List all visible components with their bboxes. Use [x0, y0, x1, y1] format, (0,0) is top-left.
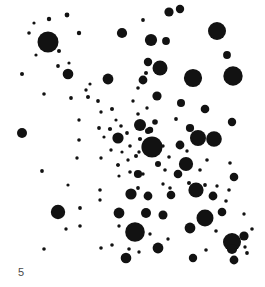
scatter-point	[114, 118, 117, 121]
scatter-point	[230, 173, 239, 182]
scatter-point	[125, 188, 136, 199]
scatter-point	[159, 211, 168, 220]
scatter-point	[97, 126, 101, 130]
scatter-point	[148, 232, 151, 235]
scatter-point	[17, 128, 27, 138]
scatter-point	[99, 110, 102, 113]
figure-number-label: 5	[18, 266, 24, 278]
scatter-point	[88, 82, 91, 85]
scatter-point	[228, 118, 236, 126]
scatter-point	[136, 86, 140, 90]
scatter-point	[153, 243, 162, 252]
scatter-point	[145, 106, 148, 109]
scatter-point	[204, 248, 208, 252]
scatter-point	[117, 28, 127, 38]
scatter-point	[109, 148, 112, 151]
scatter-point	[206, 131, 222, 147]
scatter-point	[138, 137, 142, 141]
scatter-point	[77, 138, 81, 142]
scatter-point	[223, 66, 242, 85]
scatter-point	[125, 131, 129, 135]
scatter-point	[179, 157, 193, 171]
scatter-point	[38, 32, 59, 53]
scatter-point	[214, 229, 218, 233]
scatter-point	[188, 182, 203, 197]
scatter-point	[40, 169, 44, 173]
scatter-point	[198, 168, 202, 172]
scatter-point	[167, 191, 176, 200]
scatter-point	[134, 119, 146, 131]
scatter-point	[139, 76, 148, 85]
scatter-point	[144, 58, 152, 66]
scatter-point	[230, 256, 239, 265]
scatter-point	[134, 154, 138, 158]
scatter-point	[99, 246, 103, 250]
scatter-point	[103, 74, 114, 85]
scatter-plot-canvas	[0, 0, 265, 287]
scatter-point	[75, 156, 78, 159]
scatter-point	[144, 192, 153, 201]
scatter-point	[66, 183, 69, 186]
scatter-point	[242, 212, 245, 215]
scatter-point	[110, 243, 114, 247]
scatter-point	[144, 71, 148, 75]
scatter-point	[110, 107, 114, 111]
scatter-point	[201, 105, 210, 114]
scatter-point	[57, 49, 61, 53]
scatter-point	[147, 127, 153, 133]
scatter-point	[125, 222, 145, 242]
scatter-point	[127, 247, 131, 251]
scatter-point	[224, 199, 228, 203]
scatter-point	[243, 245, 246, 248]
scatter-point	[78, 224, 82, 228]
scatter-point	[166, 237, 169, 240]
scatter-point	[239, 231, 248, 240]
scatter-point	[42, 92, 46, 96]
scatter-point	[34, 53, 37, 56]
scatter-point	[32, 21, 35, 24]
scatter-point	[64, 227, 67, 230]
scatter-point	[155, 161, 161, 167]
scatter-point	[128, 170, 132, 174]
scatter-point	[245, 251, 249, 255]
scatter-point	[164, 7, 173, 16]
scatter-point	[126, 158, 129, 161]
scatter-point	[190, 130, 206, 146]
scatter-point	[120, 150, 123, 153]
scatter-point	[128, 144, 132, 148]
scatter-point	[227, 188, 231, 192]
scatter-point	[161, 182, 164, 185]
scatter-point	[141, 18, 145, 22]
scatter-point	[174, 117, 178, 121]
scatter-point	[185, 223, 196, 234]
scatter-point	[161, 144, 164, 147]
scatter-point	[98, 198, 101, 201]
scatter-point	[63, 69, 74, 80]
scatter-point	[77, 31, 81, 35]
scatter-point	[96, 99, 100, 103]
scatter-point	[20, 72, 24, 76]
bubble-scatter-figure: 5	[0, 0, 265, 287]
scatter-point	[51, 205, 65, 219]
scatter-point	[186, 124, 194, 132]
scatter-point	[65, 13, 70, 18]
scatter-point	[67, 61, 70, 64]
scatter-point	[84, 88, 87, 91]
scatter-point	[152, 119, 158, 125]
scatter-point	[250, 227, 254, 231]
scatter-point	[228, 161, 232, 165]
scatter-point	[197, 210, 214, 227]
scatter-point	[141, 208, 151, 218]
scatter-point	[218, 208, 227, 217]
scatter-point	[174, 170, 183, 179]
scatter-point	[189, 254, 197, 262]
scatter-point	[168, 186, 172, 190]
scatter-point	[78, 206, 82, 210]
scatter-point	[223, 51, 231, 59]
scatter-point	[162, 37, 170, 45]
scatter-point	[177, 99, 185, 107]
scatter-point	[112, 132, 123, 143]
scatter-point	[98, 188, 102, 192]
scatter-point	[152, 91, 161, 100]
scatter-point	[102, 135, 105, 138]
